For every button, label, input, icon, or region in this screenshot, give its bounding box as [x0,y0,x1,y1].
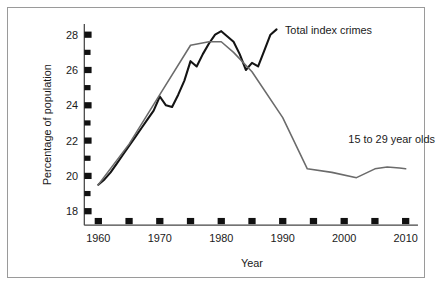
x-tick-marker [310,218,317,224]
y-tick-major [84,173,91,179]
y-tick-label: 22 [66,135,78,147]
x-tick-marker [95,218,102,224]
x-tick-marker [187,218,194,224]
x-tick-label: 1980 [209,232,233,244]
y-tick-minor [84,191,90,196]
series-label-age-15-to-29: 15 to 29 year olds [348,133,435,145]
y-tick-major [84,102,91,108]
y-tick-label: 18 [66,205,78,217]
y-tick-label: 24 [66,99,78,111]
y-tick-minor [84,156,90,161]
x-tick-label: 1960 [86,232,110,244]
x-tick-label: 1990 [271,232,295,244]
y-tick-major [84,32,91,38]
x-tick-marker [125,218,132,224]
y-tick-minor [84,120,90,125]
x-tick-marker [156,218,163,224]
line-chart: 182022242628196019701980199020002010Tota… [8,8,440,287]
x-tick-label: 1970 [148,232,172,244]
y-tick-label: 28 [66,29,78,41]
x-tick-marker [218,218,225,224]
y-tick-major [84,137,91,143]
y-tick-minor [84,50,90,55]
x-tick-marker [402,218,409,224]
y-tick-minor [84,85,90,90]
x-tick-label: 2010 [394,232,418,244]
series-label-total-index-crimes: Total index crimes [285,24,373,36]
x-tick-label: 2000 [332,232,356,244]
series-line-total-index-crimes [98,29,276,184]
chart-frame: 182022242628196019701980199020002010Tota… [7,7,425,278]
y-tick-label: 20 [66,170,78,182]
y-tick-major [84,67,91,73]
x-tick-marker [248,218,255,224]
y-tick-major [84,208,91,214]
x-tick-marker [341,218,348,224]
x-tick-marker [371,218,378,224]
y-tick-label: 26 [66,64,78,76]
y-axis-title: Percentage of population [41,64,53,185]
x-axis-title: Year [241,257,263,269]
x-tick-marker [279,218,286,224]
